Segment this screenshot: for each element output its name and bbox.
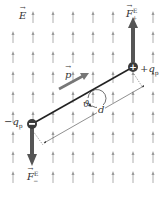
- field-arrow-head: [72, 31, 75, 35]
- field-arrow-head: [92, 11, 95, 15]
- field-arrow-head: [72, 91, 75, 95]
- field-arrow-head: [32, 51, 35, 55]
- field-arrow-head: [112, 151, 115, 155]
- field-arrow-head: [12, 111, 15, 115]
- separation-label: d: [97, 105, 105, 115]
- field-arrow-head: [12, 171, 15, 175]
- positive-charge: +: [128, 62, 138, 72]
- field-arrow-head: [12, 51, 15, 55]
- field-arrow-head: [152, 31, 155, 35]
- field-arrow-head: [32, 71, 35, 75]
- field-arrow-head: [12, 131, 15, 135]
- field-arrow-head: [32, 31, 35, 35]
- field-arrow-head: [72, 131, 75, 135]
- field-arrow-head: [112, 71, 115, 75]
- negative-charge-label: −qp: [4, 117, 23, 129]
- field-arrow-head: [52, 131, 55, 135]
- field-arrow-head: [132, 131, 135, 135]
- field-arrow-head: [152, 91, 155, 95]
- field-arrow-head: [92, 171, 95, 175]
- field-arrow-head: [152, 111, 155, 115]
- svg-text:+: +: [129, 62, 137, 72]
- field-arrow-head: [72, 111, 75, 115]
- field-arrow-head: [32, 91, 35, 95]
- field-arrow-head: [92, 131, 95, 135]
- positive-charge-label: +qp: [140, 64, 159, 76]
- field-arrow-head: [152, 171, 155, 175]
- separation-dimension: [33, 74, 143, 145]
- field-arrow-head: [152, 11, 155, 15]
- field-arrow-head: [72, 11, 75, 15]
- field-arrow-head: [112, 171, 115, 175]
- force-arrow-negative: [27, 128, 37, 166]
- field-arrow-head: [52, 91, 55, 95]
- dipole-moment-arrow: [59, 73, 89, 89]
- field-arrow-head: [52, 71, 55, 75]
- field-arrow-head: [92, 31, 95, 35]
- dipole-diagram: + E FE+ FE− +qp −qp p ϑ d: [0, 0, 165, 201]
- field-arrow-head: [72, 151, 75, 155]
- field-arrow-head: [132, 151, 135, 155]
- field-arrow-head: [152, 131, 155, 135]
- field-arrow-head: [12, 71, 15, 75]
- field-arrow-head: [72, 71, 75, 75]
- field-arrow-head: [92, 71, 95, 75]
- field-arrow-head: [12, 31, 15, 35]
- angle-label: ϑ: [83, 100, 89, 109]
- field-arrow-head: [112, 51, 115, 55]
- field-arrow-head: [152, 151, 155, 155]
- field-arrow-head: [52, 31, 55, 35]
- field-arrow-head: [12, 91, 15, 95]
- field-arrow-head: [52, 171, 55, 175]
- field-arrow-head: [92, 151, 95, 155]
- field-arrow-head: [112, 111, 115, 115]
- field-arrow-head: [132, 111, 135, 115]
- force-arrow-positive: [128, 17, 138, 62]
- field-arrow-head: [112, 131, 115, 135]
- field-arrow-head: [32, 111, 35, 115]
- negative-charge: [27, 119, 37, 129]
- field-arrow-head: [92, 51, 95, 55]
- field-arrow-head: [72, 171, 75, 175]
- field-arrow-head: [112, 31, 115, 35]
- field-label: E: [19, 11, 26, 21]
- field-arrow-head: [32, 11, 35, 15]
- field-arrow-head: [12, 151, 15, 155]
- field-arrow-head: [52, 51, 55, 55]
- field-arrow-head: [52, 11, 55, 15]
- field-arrow-head: [112, 91, 115, 95]
- field-arrow-head: [92, 91, 95, 95]
- field-arrow-head: [112, 11, 115, 15]
- force-positive-label: FE+: [126, 8, 137, 21]
- field-arrow-head: [72, 51, 75, 55]
- force-negative-label: FE−: [27, 171, 38, 184]
- field-arrow-head: [152, 51, 155, 55]
- dipole-moment-label: p: [65, 70, 71, 80]
- field-arrow-head: [132, 171, 135, 175]
- field-arrow-head: [52, 151, 55, 155]
